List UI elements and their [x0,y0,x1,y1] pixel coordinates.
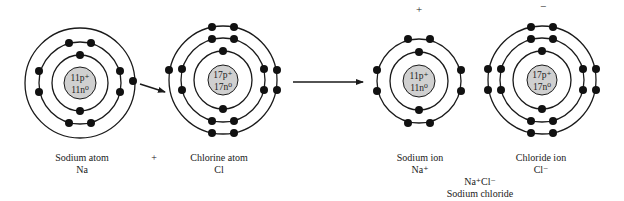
chlorine-atom-model: 17p⁺ 17n⁰ [165,23,281,137]
product-formula: Na⁺Cl⁻ [447,176,513,188]
product-name: Sodium chloride [447,188,513,200]
sodium-ion-label: Sodium ion Na⁺ [397,152,443,176]
chloride-ion-name: Chloride ion [516,152,566,164]
sodium-atom-symbol: Na [55,164,109,176]
nucleus-neutrons: 17n⁰ [533,82,551,92]
sodium-ion-name: Sodium ion [397,152,443,164]
nucleus-protons: 11p⁺ [71,73,90,83]
chloride-ion-charge: − [540,0,546,12]
chlorine-atom-symbol: Cl [190,164,248,176]
chlorine-atom-name: Chlorine atom [190,152,248,164]
chloride-ion-label: Chloride ion Cl⁻ [516,152,566,176]
nucleus-neutrons: 17n⁰ [214,82,232,92]
product-label: Na⁺Cl⁻ Sodium chloride [447,176,513,200]
sodium-atom-model: 11p⁺ 11n⁰ [25,28,137,138]
chlorine-atom-label: Chlorine atom Cl [190,152,248,176]
sodium-ion-model: 11p⁺ 11n⁰ [373,35,465,127]
nucleus-protons: 17p⁺ [532,70,551,80]
nucleus-protons: 11p⁺ [410,71,429,81]
sodium-ion-symbol: Na⁺ [397,164,443,176]
chloride-ion-symbol: Cl⁻ [516,164,566,176]
sodium-atom-label: Sodium atom Na [55,152,109,176]
sodium-atom-name: Sodium atom [55,152,109,164]
chloride-ion-model: 17p⁺ 17n⁰ [484,23,600,137]
sodium-ion-charge: + [416,3,422,15]
plus-sign: + [151,152,157,164]
nucleus-protons: 17p⁺ [213,70,232,80]
nucleus-neutrons: 11n⁰ [410,83,428,93]
nucleus-neutrons: 11n⁰ [71,85,89,95]
electron-transfer-arrow [140,84,165,92]
